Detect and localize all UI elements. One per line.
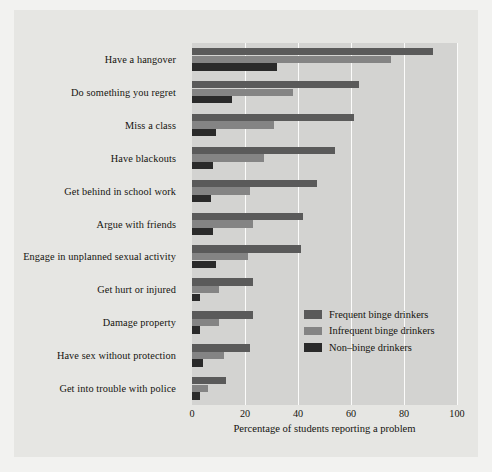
bar [192,385,208,392]
x-tick-label: 20 [240,408,250,419]
bar [192,359,203,366]
category-label: Have sex without protection [57,350,176,361]
bar [192,245,301,252]
legend-item: Non–binge drinkers [304,339,464,356]
bar-group [192,43,457,76]
bar [192,228,213,235]
legend-label: Infrequent binge drinkers [329,325,435,336]
x-tick-label: 80 [399,408,409,419]
bar [192,48,433,55]
legend-item: Frequent binge drinkers [304,306,464,323]
bar [192,213,303,220]
bar [192,129,216,136]
bar [192,121,274,128]
x-tick-label: 100 [449,408,464,419]
bar [192,154,264,161]
bar [192,89,293,96]
bar [192,253,248,260]
legend-item: Infrequent binge drinkers [304,323,464,340]
bar-group [192,240,457,273]
bar [192,278,253,285]
bar-group [192,372,457,405]
bar-group [192,273,457,306]
legend-swatch-icon [304,327,322,336]
bar-group [192,142,457,175]
category-label: Damage property [103,317,176,328]
x-axis-title: Percentage of students reporting a probl… [192,423,457,434]
category-label: Have blackouts [111,152,176,163]
x-tick-label: 60 [346,408,356,419]
category-label: Engage in unplanned sexual activity [23,251,176,262]
bar [192,326,200,333]
bar-group [192,208,457,241]
category-label: Miss a class [125,119,176,130]
bar [192,294,200,301]
bar [192,344,250,351]
category-label: Have a hangover [105,53,176,64]
category-label: Argue with friends [97,218,176,229]
bar [192,187,250,194]
bar [192,81,359,88]
bar [192,220,253,227]
bar [192,63,277,70]
chart-figure: Have a hangoverDo something you regretMi… [14,10,478,457]
legend-swatch-icon [304,310,322,319]
category-label: Get hurt or injured [97,284,176,295]
bar [192,96,232,103]
category-label: Get behind in school work [64,185,176,196]
legend-swatch-icon [304,343,322,352]
bar [192,319,219,326]
bar [192,56,391,63]
bar [192,180,317,187]
x-axis-ticks: 020406080100 [192,405,457,425]
x-tick-label: 40 [293,408,303,419]
legend-label: Frequent binge drinkers [329,309,428,320]
bar [192,352,224,359]
bar [192,162,213,169]
bar-group [192,76,457,109]
bar [192,195,211,202]
bar [192,392,200,399]
category-axis-labels: Have a hangoverDo something you regretMi… [14,43,184,405]
bar [192,114,354,121]
bar [192,286,219,293]
bar-group [192,109,457,142]
bar-group [192,175,457,208]
chart-legend: Frequent binge drinkersInfrequent binge … [304,306,464,356]
legend-label: Non–binge drinkers [329,342,412,353]
category-label: Get into trouble with police [59,383,176,394]
category-label: Do something you regret [71,86,176,97]
bar [192,377,226,384]
bar [192,147,335,154]
bar [192,311,253,318]
x-tick-label: 0 [189,408,194,419]
bar [192,261,216,268]
